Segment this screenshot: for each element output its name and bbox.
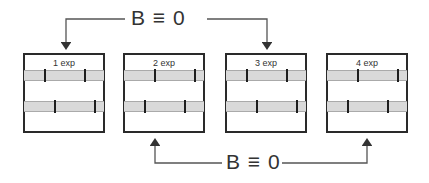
strip-upper: [24, 70, 104, 81]
strip-upper: [226, 70, 306, 81]
tick-mark: [184, 100, 186, 113]
tick-mark: [397, 69, 399, 82]
box-label: 4 exp: [328, 58, 406, 68]
experiment-box-1: 1 exp: [23, 53, 105, 133]
tick-mark: [194, 69, 196, 82]
strip-upper: [327, 70, 407, 81]
bottom-connector-label: B ≡ 0: [226, 150, 281, 174]
experiment-box-4: 4 exp: [326, 53, 408, 133]
strip-upper: [124, 70, 204, 81]
tick-mark: [154, 69, 156, 82]
tick-mark: [84, 69, 86, 82]
tick-mark: [347, 100, 349, 113]
strip-lower: [226, 101, 306, 112]
tick-mark: [44, 69, 46, 82]
experiment-box-2: 2 exp: [123, 53, 205, 133]
tick-mark: [256, 100, 258, 113]
tick-mark: [286, 69, 288, 82]
tick-mark: [54, 100, 56, 113]
box-label: 2 exp: [125, 58, 203, 68]
strip-lower: [24, 101, 104, 112]
top-connector-label: B ≡ 0: [131, 6, 186, 30]
tick-mark: [246, 69, 248, 82]
tick-mark: [144, 100, 146, 113]
tick-mark: [296, 100, 298, 113]
tick-mark: [94, 100, 96, 113]
box-label: 3 exp: [227, 58, 305, 68]
strip-lower: [327, 101, 407, 112]
strip-lower: [124, 101, 204, 112]
diagram-canvas: B ≡ 0 B ≡ 0 1 exp 2 exp 3 exp: [0, 0, 429, 183]
tick-mark: [387, 100, 389, 113]
experiment-box-3: 3 exp: [225, 53, 307, 133]
box-label: 1 exp: [25, 58, 103, 68]
tick-mark: [357, 69, 359, 82]
